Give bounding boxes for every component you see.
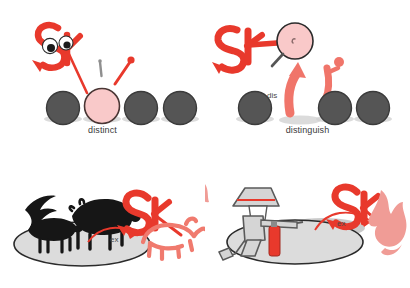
annotation-ex: ex xyxy=(110,235,118,244)
circle-4 xyxy=(164,92,197,125)
annotation-dis: dis xyxy=(267,91,277,100)
mnemonic-sheet: distinct xyxy=(0,0,410,288)
panel-distinguish: dis distinguish xyxy=(205,0,410,144)
circle-3 xyxy=(319,92,352,125)
caption-distinguish: distinguish xyxy=(205,125,410,135)
pin-gray-icon xyxy=(98,59,102,76)
circle-4 xyxy=(357,92,390,125)
panel-fire-extinguisher: ex fire extinguisher xyxy=(205,144,410,288)
fire-extinguisher-canister xyxy=(269,221,280,256)
flame-shape-small xyxy=(205,184,209,202)
up-arrow-icon xyxy=(289,62,306,113)
circle-row xyxy=(47,89,197,125)
panel-extinction: ex extinction xyxy=(0,144,205,288)
sk-mascot xyxy=(32,25,87,93)
pin-red-icon xyxy=(115,56,135,84)
sk-mascot xyxy=(212,29,277,74)
circle-2-highlight xyxy=(85,89,120,124)
circle-1 xyxy=(47,92,80,125)
caption-distinct: distinct xyxy=(0,125,205,135)
annotation-ex: ex xyxy=(337,219,345,228)
magnifying-glass-icon xyxy=(272,23,313,66)
circle-3 xyxy=(125,92,158,125)
panel-distinct: distinct xyxy=(0,0,205,144)
firefighter-helmet xyxy=(233,188,279,206)
